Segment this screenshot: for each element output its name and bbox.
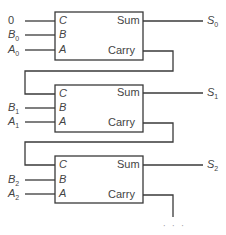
input-a1-label: A1 <box>8 116 19 129</box>
port-b-label: B <box>59 29 66 40</box>
adder-diagram: 0 B0 A0 C B A Sum Carry S0 B1 A1 C B A S… <box>0 0 226 235</box>
output-s1-label: S1 <box>207 87 218 100</box>
port-sum-label: Sum <box>117 159 140 170</box>
carry-in-zero-label: 0 <box>8 15 14 26</box>
port-b-label: B <box>59 102 66 113</box>
input-b0-label: B0 <box>8 29 19 42</box>
output-s2-label: S2 <box>207 159 218 172</box>
port-a-label: A <box>59 116 66 127</box>
continuation-ellipsis: · · · <box>163 222 186 231</box>
input-a0-label: A0 <box>8 44 19 57</box>
port-b-label: B <box>59 174 66 185</box>
port-carry-label: Carry <box>108 117 135 128</box>
port-carry-label: Carry <box>108 189 135 200</box>
port-c-label: C <box>59 88 67 99</box>
input-a2-label: A2 <box>8 188 19 201</box>
port-sum-label: Sum <box>117 15 140 26</box>
input-b1-label: B1 <box>8 102 19 115</box>
output-s0-label: S0 <box>207 15 218 28</box>
port-c-label: C <box>59 159 67 170</box>
port-carry-label: Carry <box>108 45 135 56</box>
port-a-label: A <box>59 188 66 199</box>
port-sum-label: Sum <box>117 87 140 98</box>
port-c-label: C <box>59 15 67 26</box>
port-a-label: A <box>59 44 66 55</box>
input-b2-label: B2 <box>8 174 19 187</box>
